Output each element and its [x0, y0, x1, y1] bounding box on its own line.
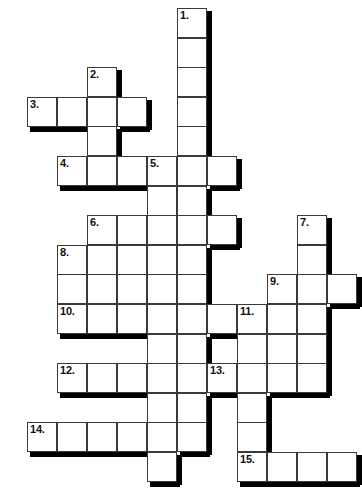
crossword-cell-numbered[interactable]: 6. — [87, 215, 117, 245]
clue-number: 2. — [90, 68, 99, 81]
crossword-cell[interactable] — [117, 215, 147, 245]
crossword-cell[interactable] — [147, 393, 177, 423]
crossword-cell[interactable] — [177, 245, 207, 275]
crossword-cell[interactable] — [147, 452, 177, 482]
crossword-cell[interactable] — [147, 274, 177, 304]
crossword-cell[interactable] — [297, 452, 327, 482]
crossword-cell[interactable] — [237, 422, 267, 452]
clue-number: 10. — [60, 305, 75, 318]
crossword-cell[interactable] — [87, 363, 117, 393]
crossword-cell[interactable] — [177, 304, 207, 334]
clue-number: 15. — [240, 453, 255, 466]
crossword-cell[interactable] — [297, 304, 327, 334]
crossword-cell[interactable] — [87, 156, 117, 186]
crossword-cell-numbered[interactable]: 3. — [27, 97, 57, 127]
crossword-cell[interactable] — [117, 363, 147, 393]
crossword-cell-numbered[interactable]: 2. — [87, 67, 117, 97]
crossword-cell[interactable] — [87, 422, 117, 452]
crossword-cell[interactable] — [177, 422, 207, 452]
crossword-cell[interactable] — [177, 334, 207, 364]
crossword-cell[interactable] — [177, 274, 207, 304]
crossword-cell[interactable] — [297, 363, 327, 393]
crossword-cell[interactable] — [117, 422, 147, 452]
crossword-cell[interactable] — [177, 126, 207, 156]
crossword-cell[interactable] — [327, 274, 357, 304]
crossword-cell[interactable] — [237, 393, 267, 423]
crossword-cell[interactable] — [87, 97, 117, 127]
crossword-cell[interactable] — [87, 126, 117, 156]
crossword-cell-numbered[interactable]: 10. — [57, 304, 87, 334]
clue-number: 14. — [30, 423, 45, 436]
crossword-cell-numbered[interactable]: 8. — [57, 245, 87, 275]
crossword-cell-numbered[interactable]: 13. — [207, 363, 237, 393]
clue-number: 13. — [210, 364, 225, 377]
crossword-cell-numbered[interactable]: 11. — [237, 304, 267, 334]
crossword-cell-numbered[interactable]: 7. — [297, 215, 327, 245]
clue-number: 3. — [30, 98, 39, 111]
crossword-cell[interactable] — [267, 304, 297, 334]
crossword-cell[interactable] — [207, 304, 237, 334]
crossword-cell[interactable] — [57, 422, 87, 452]
crossword-cell[interactable] — [177, 156, 207, 186]
clue-number: 1. — [180, 9, 189, 22]
crossword-cell[interactable] — [207, 156, 237, 186]
clue-number: 8. — [60, 246, 69, 259]
crossword-cell-numbered[interactable]: 4. — [57, 156, 87, 186]
crossword-cell-numbered[interactable]: 12. — [57, 363, 87, 393]
crossword-cell[interactable] — [117, 274, 147, 304]
crossword-cell-numbered[interactable]: 15. — [237, 452, 267, 482]
crossword-cell[interactable] — [237, 363, 267, 393]
crossword-cell[interactable] — [87, 304, 117, 334]
crossword-cell[interactable] — [117, 304, 147, 334]
crossword-cell[interactable] — [177, 363, 207, 393]
crossword-cell[interactable] — [177, 215, 207, 245]
clue-number: 9. — [270, 275, 279, 288]
crossword-cell[interactable] — [177, 393, 207, 423]
crossword-cell[interactable] — [57, 97, 87, 127]
clue-number: 11. — [240, 305, 254, 318]
crossword-cell[interactable] — [147, 422, 177, 452]
crossword-cell-numbered[interactable]: 1. — [177, 8, 207, 38]
crossword-cell[interactable] — [177, 97, 207, 127]
clue-number: 7. — [300, 216, 309, 229]
crossword-cell[interactable] — [177, 67, 207, 97]
clue-number: 4. — [60, 157, 69, 170]
crossword-cell-numbered[interactable]: 5. — [147, 156, 177, 186]
crossword-cell[interactable] — [147, 363, 177, 393]
crossword-cell[interactable] — [297, 274, 327, 304]
crossword-cell[interactable] — [117, 156, 147, 186]
crossword-cell[interactable] — [267, 334, 297, 364]
crossword-cell[interactable] — [117, 245, 147, 275]
crossword-cell-numbered[interactable]: 14. — [27, 422, 57, 452]
clue-number: 12. — [60, 364, 75, 377]
crossword-cell-numbered[interactable]: 9. — [267, 274, 297, 304]
crossword-cell[interactable] — [117, 97, 147, 127]
crossword-cell[interactable] — [267, 452, 297, 482]
crossword-cell[interactable] — [147, 245, 177, 275]
crossword-cell[interactable] — [147, 215, 177, 245]
crossword-cell[interactable] — [267, 363, 297, 393]
crossword-cell[interactable] — [147, 334, 177, 364]
clue-number: 5. — [150, 157, 159, 170]
crossword-cell[interactable] — [147, 186, 177, 216]
clue-number: 6. — [90, 216, 99, 229]
crossword-cell[interactable] — [297, 334, 327, 364]
crossword-cell[interactable] — [327, 452, 357, 482]
crossword-cell[interactable] — [297, 245, 327, 275]
crossword-cell[interactable] — [57, 274, 87, 304]
crossword-cell[interactable] — [87, 274, 117, 304]
crossword-cell[interactable] — [177, 186, 207, 216]
crossword-cell[interactable] — [207, 215, 237, 245]
crossword-cell[interactable] — [177, 38, 207, 68]
crossword-cell[interactable] — [87, 245, 117, 275]
crossword-cell[interactable] — [147, 304, 177, 334]
crossword-cell[interactable] — [237, 334, 267, 364]
